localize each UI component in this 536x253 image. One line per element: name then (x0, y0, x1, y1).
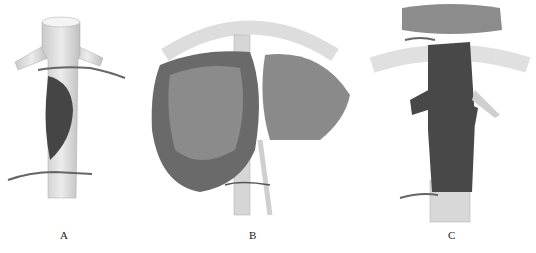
panel-label-a: A (60, 229, 68, 241)
vessel-tumor-illustration (0, 0, 140, 225)
panel-label-c: C (448, 229, 455, 241)
panel-b: B (140, 0, 360, 225)
panel-a: A (0, 0, 140, 225)
liver-illustration (140, 0, 360, 225)
panel-label-b: B (249, 229, 256, 241)
panel-c: C (360, 0, 536, 225)
encased-vessel-illustration (360, 0, 536, 225)
